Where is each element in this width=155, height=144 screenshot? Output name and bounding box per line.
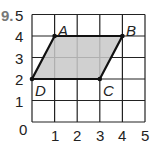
point-d (30, 77, 35, 82)
label-a: A (58, 23, 68, 38)
y-tick-4: 4 (15, 29, 23, 44)
y-tick-3: 3 (15, 51, 23, 66)
x-tick-4: 4 (118, 128, 126, 143)
x-tick-5: 5 (141, 128, 149, 143)
origin-tick: 0 (19, 122, 27, 137)
y-tick-5: 5 (15, 8, 23, 23)
label-c: C (103, 83, 114, 98)
point-b (120, 34, 125, 39)
y-tick-2: 2 (15, 72, 23, 87)
x-tick-3: 3 (96, 128, 104, 143)
point-c (98, 77, 103, 82)
parallelogram-abcd (32, 36, 122, 79)
x-tick-2: 2 (73, 128, 81, 143)
label-b: B (126, 23, 136, 38)
label-d: D (35, 83, 46, 98)
y-tick-1: 1 (15, 94, 23, 109)
point-a (52, 34, 57, 39)
problem-number: 9. (1, 8, 14, 23)
x-tick-1: 1 (51, 128, 59, 143)
